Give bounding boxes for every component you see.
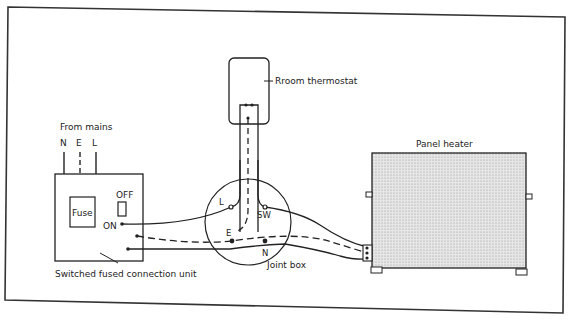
from-mains-label: From mains	[60, 122, 113, 132]
terminal-l-label: L	[219, 197, 224, 207]
terminal-n-label: N	[262, 248, 268, 258]
wiring	[122, 160, 367, 259]
switch-rocker	[118, 202, 126, 216]
wiring-diagram: Rroom thermostat From mains N E L Fuse O…	[0, 0, 570, 321]
mains-l-label: L	[92, 138, 97, 148]
mains-n-label: N	[60, 138, 67, 148]
sfcu-label: Switched fused connection unit	[55, 269, 197, 279]
terminal-sw-label: SW	[257, 210, 271, 220]
mains-e-label: E	[76, 138, 82, 148]
thermostat-label: Rroom thermostat	[275, 76, 358, 86]
on-label: ON	[103, 221, 117, 231]
joint-box-label: Joint box	[266, 260, 307, 270]
panel-heater	[363, 153, 532, 275]
terminal-e-label: E	[226, 228, 231, 238]
panel-heater-label: Panel heater	[416, 139, 473, 149]
fuse-label: Fuse	[72, 208, 93, 218]
off-label: OFF	[116, 190, 133, 200]
